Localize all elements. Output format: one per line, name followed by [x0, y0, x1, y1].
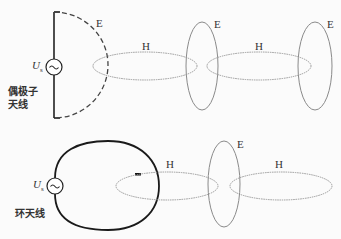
- source-symbol-u: U: [33, 178, 41, 190]
- top-e-label-1: E: [214, 18, 221, 30]
- dipole-source-icon: [46, 59, 62, 75]
- top-h-label-2: H: [255, 40, 263, 52]
- bottom-h-label-1: H: [166, 158, 174, 170]
- top-h-label-1: H: [142, 40, 150, 52]
- bottom-h-field-2: [230, 172, 332, 200]
- dipole-antenna-label: 偶极子 天线: [8, 85, 38, 111]
- loop-source-icon: [47, 178, 63, 194]
- bottom-e-field: [208, 141, 240, 227]
- dipole-label-line1: 偶极子: [8, 85, 38, 98]
- top-h-field-2: [207, 52, 311, 80]
- diagram-canvas: E H H E E H H E: [0, 0, 341, 239]
- top-e-label-2: E: [327, 18, 334, 30]
- dipole-label-line2: 天线: [8, 98, 38, 111]
- dipole-e-label: E: [96, 17, 103, 29]
- loop-antenna-label: 环天线: [15, 207, 45, 220]
- top-e-field-2: [298, 22, 332, 110]
- loop-source-symbol: Us: [33, 178, 44, 193]
- source-subscript: s: [40, 66, 43, 74]
- top-e-field-1: [186, 22, 218, 110]
- bottom-e-label: E: [237, 138, 244, 150]
- source-subscript: s: [41, 185, 44, 193]
- loop-antenna: [55, 141, 159, 230]
- source-symbol-u: U: [32, 59, 40, 71]
- bottom-h-field-1: [116, 172, 218, 200]
- bottom-h-label-2: H: [275, 158, 283, 170]
- antenna-field-diagram: E H H E E H H E Us Us 偶极子 天线: [0, 0, 341, 239]
- dipole-source-symbol: Us: [32, 59, 43, 74]
